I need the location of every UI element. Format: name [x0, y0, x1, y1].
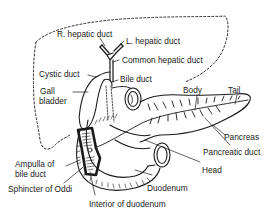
ampulla: [78, 128, 100, 175]
label-interior-of-duodenum: Interior of duodenum: [89, 200, 166, 209]
label-body: Body: [183, 86, 202, 95]
label-pancreas: Pancreas: [224, 133, 259, 142]
label-common-hepatic-duct: Common hepatic duct: [122, 56, 203, 65]
label-head: Head: [202, 166, 222, 175]
duodenum-upper: [112, 87, 141, 111]
label-ampulla-line1: Ampulla of: [15, 160, 54, 169]
anatomy-diagram: R. hepatic duct L. hepatic duct Common h…: [0, 0, 277, 217]
label-sphincter-of-oddi: Sphincter of Oddi: [8, 185, 72, 194]
label-ampulla-line2: bile duct: [15, 170, 46, 179]
bile-duct: [106, 86, 114, 122]
label-cystic-duct: Cystic duct: [39, 70, 80, 79]
label-pancreatic-duct: Pancreatic duct: [203, 148, 260, 157]
label-gall: Gall: [40, 87, 55, 96]
label-duodenum: Duodenum: [147, 184, 188, 193]
label-l-hepatic-duct: L. hepatic duct: [126, 37, 180, 46]
label-tail: Tail: [228, 86, 240, 95]
label-r-hepatic-duct: R. hepatic duct: [57, 30, 112, 39]
label-bladder: bladder: [39, 97, 67, 106]
label-bile-duct: Bile duct: [120, 75, 152, 84]
